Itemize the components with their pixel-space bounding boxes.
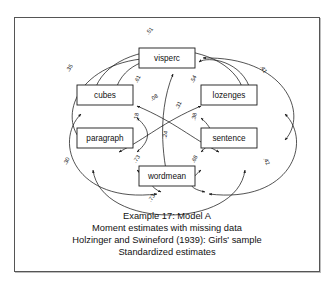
figure-frame: visperccubeslozengesparagraphsentencewor… xyxy=(14,17,320,272)
caption-block: Example 17: Model A Moment estimates wit… xyxy=(15,208,319,268)
caption-title: Example 17: Model A xyxy=(123,211,212,221)
figure-page: visperccubeslozengesparagraphsentencewor… xyxy=(0,0,336,286)
node-paragraph: paragraph xyxy=(77,128,133,148)
nodes-layer: visperccubeslozengesparagraphsentencewor… xyxy=(77,48,257,186)
node-label-cubes: cubes xyxy=(94,91,116,100)
edge-label-cubes-visperc: .61 xyxy=(133,74,142,84)
node-label-paragraph: paragraph xyxy=(86,134,124,143)
node-label-visperc: visperc xyxy=(154,54,180,63)
edge-label-cubes-sentence: .08 xyxy=(149,93,159,102)
edge-label-paragraph-wordmean: .30 xyxy=(62,156,71,166)
edge-label-lozenges-sentence: .41 xyxy=(259,64,268,74)
edge-label-sentence-wordmean: .68 xyxy=(190,154,199,164)
edge-label-cubes-lozenges: .51 xyxy=(145,26,155,36)
node-wordmean: wordmean xyxy=(139,166,195,186)
node-sentence: sentence xyxy=(201,128,257,148)
node-cubes: cubes xyxy=(77,85,133,105)
edge-label-paragraph-wordmean: .73 xyxy=(132,154,141,164)
caption-source: Holzinger and Swineford (1939): Girls' s… xyxy=(72,235,261,245)
node-label-wordmean: wordmean xyxy=(147,172,187,181)
edge-cubes-paragraph xyxy=(137,118,148,152)
edge-label-visperc-wordmean: .24 xyxy=(161,130,168,139)
edge-lozenges-wordmean xyxy=(209,114,297,195)
edge-label-sentence-wordmean: .42 xyxy=(262,156,271,166)
caption-note: Standardized estimates xyxy=(118,247,216,257)
edge-label-cubes-paragraph: .35 xyxy=(65,63,74,73)
edge-label-visperc-lozenges: .54 xyxy=(189,74,198,84)
edge-label-lozenges-paragraph: .31 xyxy=(174,100,183,110)
node-label-sentence: sentence xyxy=(212,134,246,143)
node-lozenges: lozenges xyxy=(201,85,257,105)
edge-label-lozenges-sentence: .38 xyxy=(190,112,197,121)
node-visperc: visperc xyxy=(139,48,195,68)
node-label-lozenges: lozenges xyxy=(213,91,246,100)
caption-subtitle: Moment estimates with missing data xyxy=(92,223,243,233)
